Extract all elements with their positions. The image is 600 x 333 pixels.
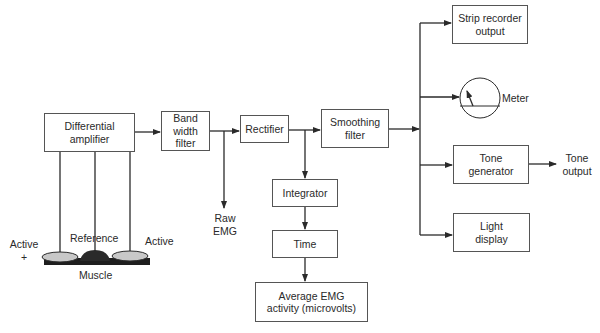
- tone-output-label: Tone output: [559, 152, 595, 177]
- meter-icon: [460, 78, 500, 118]
- tone-generator-block: Tone generator: [453, 145, 529, 184]
- active-label: Active: [145, 235, 174, 248]
- band-width-filter-block: Band width filter: [161, 111, 210, 151]
- time-block: Time: [272, 230, 338, 258]
- strip-recorder-block: Strip recorder output: [452, 5, 528, 44]
- rectifier-block: Rectifier: [240, 115, 289, 143]
- light-display-block: Light display: [453, 213, 530, 252]
- active-positive-label: Active +: [6, 238, 42, 263]
- average-emg-block: Average EMG activity (microvolts): [255, 282, 368, 322]
- smoothing-filter-block: Smoothing filter: [321, 109, 389, 148]
- muscle-electrodes-icon: [42, 250, 150, 265]
- raw-emg-label: Raw EMG: [210, 212, 240, 237]
- muscle-label: Muscle: [79, 269, 112, 282]
- meter-label: Meter: [502, 92, 529, 105]
- differential-amplifier-block: Differential amplifier: [44, 113, 135, 152]
- reference-label: Reference: [70, 232, 118, 245]
- integrator-block: Integrator: [272, 179, 338, 207]
- emg-block-diagram: Differential amplifier Band width filter…: [0, 0, 600, 333]
